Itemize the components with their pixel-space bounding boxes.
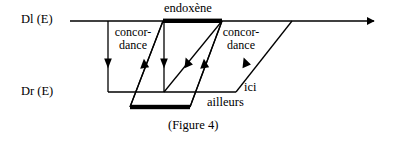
figure-caption: (Figure 4): [168, 119, 218, 132]
vertical-connector-1-arrowhead: [104, 59, 112, 69]
endoxene-label: endoxène: [164, 2, 212, 15]
concordance-label-left-line2: dance: [111, 39, 155, 52]
axis-label-lower: Dr (E): [21, 85, 53, 98]
ailleurs-bar: [130, 105, 190, 109]
diagonal-connector-c-arrowhead: [200, 58, 210, 70]
vertical-connector-2-arrowhead: [160, 59, 168, 69]
diagonal-connector-b: [164, 21, 222, 92]
ailleurs-label: ailleurs: [207, 96, 244, 109]
concordance-label-left: concor- dance: [111, 26, 155, 51]
figure-4-container: Dl (E) Dr (E) endoxène concor- dance con…: [0, 0, 394, 142]
concordance-label-left-line1: concor-: [111, 26, 155, 39]
ici-label: ici: [244, 81, 257, 94]
diagonal-connector-d-arrowhead: [240, 56, 251, 68]
axis-label-upper: Dl (E): [21, 13, 53, 26]
concordance-label-right-line2: dance: [219, 39, 263, 52]
concordance-label-right: concor- dance: [219, 26, 263, 51]
endoxene-bar: [163, 19, 222, 23]
concordance-label-right-line1: concor-: [219, 26, 263, 39]
